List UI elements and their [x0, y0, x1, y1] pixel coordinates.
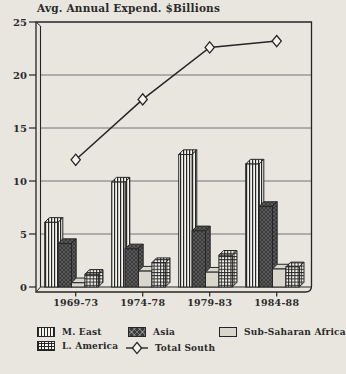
total-south-marker-1969-73 [71, 154, 80, 165]
legend-diamond-icon [132, 342, 141, 353]
bar-side-face [165, 258, 170, 287]
bar-sub-saharan-africa-1974-78 [139, 271, 152, 287]
frame-corner-bottom [36, 287, 41, 292]
bar-side-face [299, 262, 304, 287]
legend-swatch-sub-saharan-africa [219, 327, 237, 337]
bar-asia-1969-73 [58, 244, 71, 287]
legend-swatch-l-america [37, 341, 55, 351]
bar-asia-1984-88 [259, 206, 272, 287]
bar-m-east-1969-73 [45, 222, 58, 287]
x-category-label-1969-73: 1969-73 [53, 297, 98, 308]
y-tick-label-10: 10 [13, 176, 27, 187]
bar-m-east-1984-88 [246, 164, 259, 287]
bar-side-face [232, 251, 237, 288]
legend-swatch-m-east [37, 327, 55, 337]
total-south-marker-1979-83 [205, 42, 214, 53]
y-tick-label-15: 15 [13, 123, 27, 134]
bar-l-america-1974-78 [152, 263, 165, 287]
legend-label-total-south: Total South [155, 343, 215, 353]
y-tick-label-5: 5 [20, 229, 27, 240]
total-south-marker-1974-78 [138, 94, 147, 105]
y-tick-label-0: 0 [20, 282, 27, 293]
legend-item-total-south: Total South [126, 341, 215, 355]
bar-l-america-1979-83 [219, 255, 232, 287]
bar-m-east-1974-78 [112, 182, 125, 287]
legend-item-m-east: M. East [37, 327, 102, 337]
bar-m-east-1979-83 [179, 155, 192, 288]
total-south-symbol-icon [126, 341, 148, 355]
legend-swatch-asia [128, 327, 146, 337]
total-south-marker-1984-88 [272, 35, 281, 46]
chart-plot: 05101520251969-731974-781979-831984-88 [0, 0, 333, 318]
bar-sub-saharan-africa-1969-73 [72, 283, 85, 287]
legend-item-l-america: L. America [37, 341, 118, 351]
x-category-label-1974-78: 1974-78 [120, 297, 165, 308]
bar-asia-1974-78 [125, 249, 138, 287]
bar-l-america-1969-73 [85, 274, 98, 287]
legend-label-l-america: L. America [62, 341, 118, 351]
bar-asia-1979-83 [192, 231, 205, 287]
y-tick-label-20: 20 [13, 70, 27, 81]
legend-item-sub-saharan-africa: Sub-Saharan Africa [219, 327, 346, 337]
bar-sub-saharan-africa-1984-88 [273, 269, 286, 287]
bar-sub-saharan-africa-1979-83 [206, 272, 219, 287]
total-south-line [76, 41, 277, 160]
legend-label-asia: Asia [153, 327, 175, 337]
x-category-label-1979-83: 1979-83 [187, 297, 232, 308]
legend-label-sub-saharan-africa: Sub-Saharan Africa [244, 327, 346, 337]
legend-item-asia: Asia [128, 327, 175, 337]
y-tick-label-25: 25 [13, 17, 27, 28]
x-category-label-1984-88: 1984-88 [254, 297, 299, 308]
bar-l-america-1984-88 [286, 267, 299, 287]
legend-label-m-east: M. East [62, 327, 102, 337]
